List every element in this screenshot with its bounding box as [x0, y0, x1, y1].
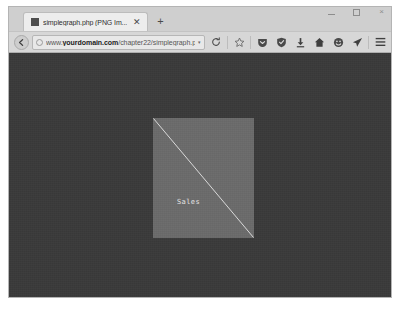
- url-path: /chapter22/simplegraph.php: [118, 39, 195, 46]
- account-icon[interactable]: [330, 34, 346, 51]
- site-identity-icon[interactable]: [36, 39, 43, 46]
- url-text: www.yourdomain.com/chapter22/simplegraph…: [46, 39, 195, 46]
- toolbar-divider: [368, 36, 369, 49]
- bookmark-star-icon[interactable]: [231, 34, 247, 51]
- url-domain: yourdomain.com: [63, 39, 119, 46]
- send-tab-icon[interactable]: [349, 34, 365, 51]
- graph-label-sales: Sales: [177, 198, 200, 206]
- screenshot-root: simplegraph.php (PNG Im... ✕ + × www.you…: [0, 0, 400, 315]
- page-content: Sales: [9, 53, 391, 297]
- toolbar-divider: [250, 36, 251, 49]
- chevron-down-icon[interactable]: ▾: [198, 39, 201, 45]
- image-file-icon: [31, 18, 39, 26]
- pocket-icon[interactable]: [254, 34, 270, 51]
- close-tab-icon[interactable]: ✕: [131, 18, 141, 27]
- simplegraph-png-image: Sales: [153, 118, 254, 238]
- hamburger-menu-icon[interactable]: [372, 34, 388, 51]
- toolbar-divider: [227, 36, 228, 49]
- diagonal-sales-line: [153, 118, 254, 238]
- tab-title: simplegraph.php (PNG Im...: [43, 19, 127, 26]
- home-icon[interactable]: [311, 34, 327, 51]
- minimize-button[interactable]: [326, 10, 337, 15]
- new-tab-button[interactable]: +: [157, 16, 163, 27]
- reload-icon[interactable]: [208, 34, 224, 51]
- address-bar[interactable]: www.yourdomain.com/chapter22/simplegraph…: [32, 35, 205, 50]
- tab-strip: simplegraph.php (PNG Im... ✕ + ×: [9, 7, 391, 31]
- tab-simplegraph[interactable]: simplegraph.php (PNG Im... ✕: [23, 12, 148, 31]
- browser-window: simplegraph.php (PNG Im... ✕ + × www.you…: [8, 6, 392, 298]
- maximize-button[interactable]: [351, 9, 362, 16]
- navigation-toolbar: www.yourdomain.com/chapter22/simplegraph…: [9, 31, 391, 53]
- close-window-button[interactable]: ×: [376, 8, 387, 16]
- download-icon[interactable]: [292, 34, 308, 51]
- back-button[interactable]: [14, 35, 29, 50]
- window-controls: ×: [326, 8, 387, 16]
- shield-icon[interactable]: [273, 34, 289, 51]
